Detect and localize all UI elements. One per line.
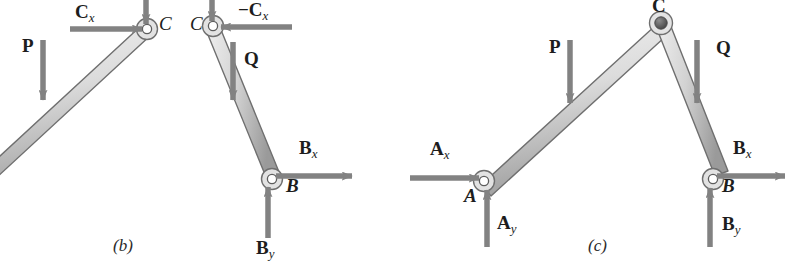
panel-b-force-q-label: Q <box>244 49 259 68</box>
panel-c-pin-b <box>703 169 724 190</box>
panel-c-force-by-label-text: B <box>722 213 735 234</box>
panel-b-force-bx-label-text: B <box>299 137 312 158</box>
panel-b-force-q-label-text: Q <box>244 48 259 69</box>
free-body-diagram-figure: Cx P C C −Cx Q Bx B By (b) C P Q Ax A <box>0 0 785 277</box>
panel-c-caption-text: (c) <box>588 236 607 255</box>
panel-b-caption-text: (b) <box>113 236 133 255</box>
panel-c-force-q-label-text: Q <box>716 37 731 58</box>
panel-b-force-cx-label-sub: x <box>89 10 95 25</box>
panel-c-force-bx-label-text: B <box>733 137 746 158</box>
panel-b-force-bx-label: Bx <box>299 138 317 161</box>
panel-b-force-by-label-text: B <box>256 237 269 258</box>
panel-b-force-cx-label-text: C <box>75 1 89 22</box>
panel-b-force-cx-label: Cx <box>75 2 94 25</box>
panel-c-force-by-label: By <box>722 214 740 237</box>
panel-c-point-b-label-text: B <box>722 175 735 196</box>
panel-c-point-a-label: A <box>464 186 477 205</box>
panel-c-force-ay-label-text: A <box>497 212 511 233</box>
panel-c-force-ay-label-sub: y <box>511 221 517 236</box>
panel-c-point-b-label: B <box>722 176 735 195</box>
panel-b-member-cb <box>203 16 283 190</box>
member-cb-body <box>206 25 279 177</box>
panel-b-force-neg-cx-label: −Cx <box>238 0 268 23</box>
pin-b-hole <box>708 174 717 183</box>
panel-c-force-q-label: Q <box>716 38 731 57</box>
pin-c-core <box>655 17 667 29</box>
panel-c-force-ax-label-sub: x <box>444 147 450 162</box>
panel-b-point-c-right-label: C <box>190 14 203 33</box>
panel-c-force-ax-label-text: A <box>430 138 444 159</box>
panel-b-force-bx-label-sub: x <box>312 146 318 161</box>
panel-b-force-neg-cx-label-text: −C <box>238 0 263 20</box>
panel-c-member-ac-body <box>481 25 666 196</box>
panel-c-force-p-label: P <box>549 37 561 56</box>
member-ac-pin-hole <box>142 24 151 33</box>
panel-b-force-by-label-sub: y <box>269 246 275 261</box>
panel-b-point-b-label: B <box>286 176 299 195</box>
panel-c-force-ay-label: Ay <box>497 213 516 236</box>
panel-b-caption: (b) <box>113 237 133 254</box>
member-cb-pin-b-hole <box>267 174 276 183</box>
pin-a-hole <box>479 176 488 185</box>
panel-b-force-p-label-text: P <box>22 35 34 56</box>
panel-c-force-p-label-text: P <box>549 36 561 57</box>
panel-c-point-a-label-text: A <box>464 185 477 206</box>
member-cb-pin-c-hole <box>208 21 217 30</box>
panel-c-member-ac <box>481 25 666 196</box>
panel-c-force-bx-label: Bx <box>733 138 751 161</box>
panel-b-force-p-label: P <box>22 36 34 55</box>
panel-c-point-c-label-text: C <box>652 0 666 16</box>
panel-b-point-b-label-text: B <box>286 175 299 196</box>
panel-b-force-by-label: By <box>256 238 274 261</box>
panel-c-caption: (c) <box>588 237 607 254</box>
panel-b-point-c-left-label: C <box>159 14 172 33</box>
panel-c-point-c-label: C <box>652 0 666 15</box>
panel-c-force-by-label-sub: y <box>735 222 741 237</box>
panel-b-point-c-left-label-text: C <box>159 13 172 34</box>
panel-c-force-ax-label: Ax <box>430 139 449 162</box>
panel-c-force-bx-label-sub: x <box>746 146 752 161</box>
panel-b-point-c-right-label-text: C <box>190 13 203 34</box>
panel-b-force-neg-cx-label-sub: x <box>263 8 269 23</box>
